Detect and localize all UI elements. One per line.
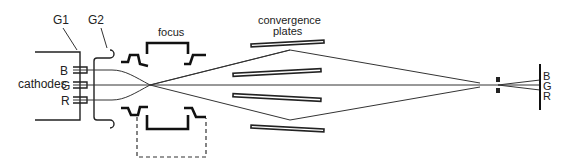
electron-gun-diagram: G1 G2 B G R cathodes focus	[0, 0, 568, 168]
focus-electrode-bottom	[121, 107, 206, 129]
g2-label: G2	[88, 13, 104, 27]
g2-leader	[101, 28, 107, 48]
cathode-b-label: B	[60, 64, 68, 78]
plates-label: plates	[273, 25, 303, 37]
cathodes-label: cathodes	[18, 77, 67, 91]
screen-r-label: R	[543, 90, 551, 102]
g1-leader	[63, 28, 77, 50]
g2-grid	[94, 50, 114, 128]
focus-electrode-top	[121, 43, 206, 66]
g1-label: G1	[53, 13, 69, 27]
electron-beams	[87, 50, 540, 120]
focus-label: focus	[158, 26, 185, 38]
cathode-r-label: R	[61, 94, 70, 108]
